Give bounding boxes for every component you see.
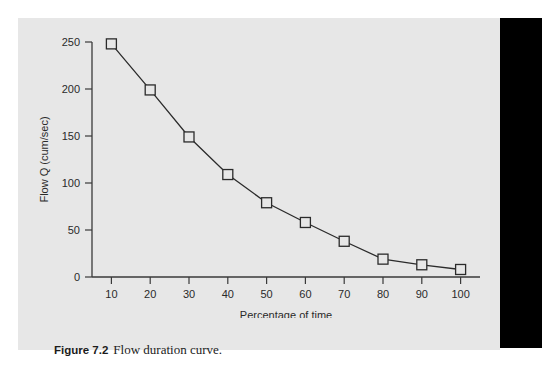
figure-caption-text: Flow duration curve. [113, 342, 222, 357]
x-tick-label: 40 [222, 288, 234, 300]
y-tick-label: 50 [68, 224, 80, 236]
x-tick-label: 70 [338, 288, 350, 300]
flow-duration-curve-chart: 050100150200250 102030405060708090100 Pe… [18, 18, 500, 318]
data-point-marker [262, 198, 272, 208]
x-tick-label: 100 [451, 288, 469, 300]
data-point-marker [184, 132, 194, 142]
y-tick-label: 0 [74, 271, 80, 283]
x-axis: 102030405060708090100 [92, 277, 480, 300]
data-point-marker [106, 39, 116, 49]
y-axis: 050100150200250 [62, 36, 92, 283]
y-tick-label: 100 [62, 177, 80, 189]
x-tick-label: 50 [260, 288, 272, 300]
x-tick-label: 80 [377, 288, 389, 300]
data-point-marker [417, 260, 427, 270]
x-tick-label: 10 [105, 288, 117, 300]
data-point-marker [300, 217, 310, 227]
x-axis-title: Percentage of time [240, 309, 332, 318]
data-point-marker [223, 170, 233, 180]
x-tick-label: 30 [183, 288, 195, 300]
figure-panel: 050100150200250 102030405060708090100 Pe… [18, 18, 500, 350]
x-tick-label: 60 [299, 288, 311, 300]
figure-caption-label: Figure 7.2 [54, 344, 108, 356]
black-margin-bar [500, 18, 542, 348]
x-tick-label: 20 [144, 288, 156, 300]
y-tick-label: 200 [62, 83, 80, 95]
y-tick-label: 250 [62, 36, 80, 48]
data-series-flow [106, 39, 465, 275]
data-line [111, 44, 460, 270]
data-point-marker [456, 264, 466, 274]
data-point-marker [339, 236, 349, 246]
y-axis-title: Flow Q (cum/sec) [38, 116, 50, 202]
x-tick-label: 90 [416, 288, 428, 300]
data-point-marker [378, 254, 388, 264]
y-tick-label: 150 [62, 130, 80, 142]
chart-plot-area: 050100150200250 102030405060708090100 Pe… [18, 18, 500, 318]
figure-caption: Figure 7.2Flow duration curve. [54, 342, 222, 358]
data-point-marker [145, 85, 155, 95]
